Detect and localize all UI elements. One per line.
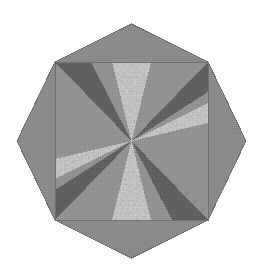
center-square-pinwheel <box>55 62 208 220</box>
artwork-canvas: Eight Point Star Quilt Block <box>0 0 258 276</box>
quilt-block-illustration <box>0 0 258 276</box>
